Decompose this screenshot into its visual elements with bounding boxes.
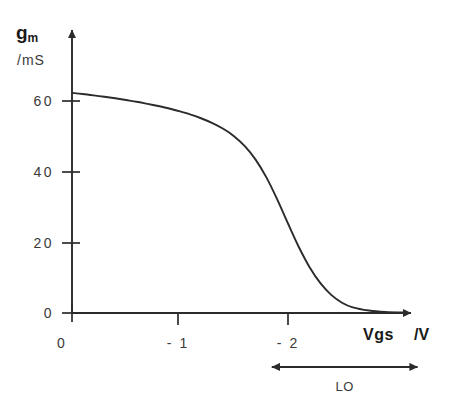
y-axis-symbol-glyph: g [16,22,28,43]
y-axis-symbol-label: gm [16,22,38,44]
x-axis-symbol-label: Vgs [363,326,394,344]
lo-annotation-label: LO [336,379,354,394]
x-tick-label-0: 0 [40,335,84,351]
y-tick-label-20: 20 [20,235,54,251]
y-tick-label-40: 40 [20,164,54,180]
y-axis-symbol-subscript: m [28,31,39,45]
y-tick-label-0: 0 [20,305,54,321]
y-axis-unit-label: /mS [17,52,45,68]
x-axis-unit-label: /V [414,326,429,344]
y-tick-label-60: 60 [20,93,54,109]
x-tick-label-minus1: - 1 [156,335,200,351]
x-tick-label-minus2: - 2 [266,335,310,351]
